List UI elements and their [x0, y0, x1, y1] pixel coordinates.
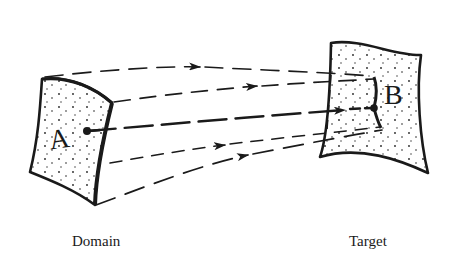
arrow-top-edge	[45, 67, 200, 77]
target-surface	[320, 42, 428, 173]
mapping-diagram: A B	[0, 0, 457, 257]
domain-face	[30, 79, 112, 205]
domain-caption: Domain	[72, 233, 120, 250]
arrow-center	[88, 110, 345, 131]
arrow-center-tail	[350, 108, 372, 109]
domain-surface	[30, 79, 112, 205]
arrow-lower	[110, 145, 225, 163]
target-caption: Target	[349, 233, 387, 250]
arrow-bottom-edge	[96, 155, 248, 205]
domain-point	[83, 127, 91, 135]
target-label: B	[384, 79, 403, 110]
arrow-upper	[114, 86, 257, 102]
